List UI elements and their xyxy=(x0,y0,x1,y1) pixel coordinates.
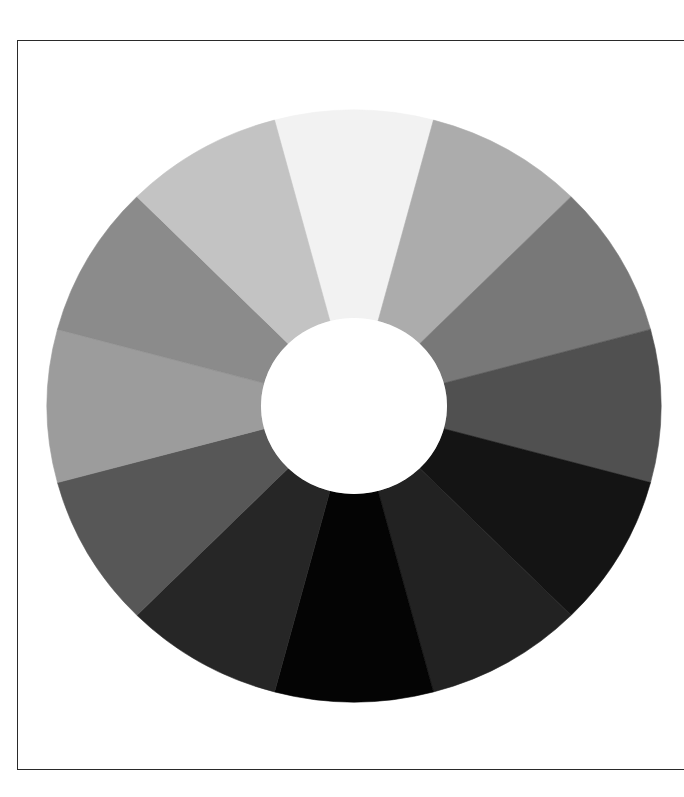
wheel-center-hole xyxy=(261,318,447,494)
grayscale-color-wheel xyxy=(0,0,684,797)
